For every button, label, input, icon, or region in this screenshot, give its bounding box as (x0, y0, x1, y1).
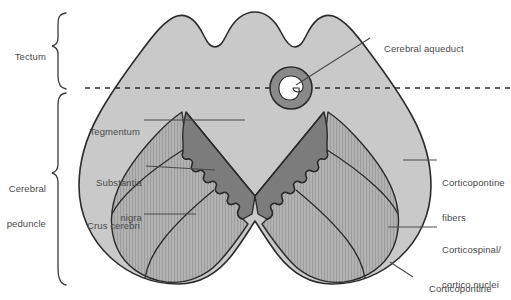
midbrain-cross-section-figure: Tectum Cerebral peduncle Cerebral aquedu… (0, 0, 511, 300)
bracket-tectum (52, 13, 66, 89)
cerebral-peduncle-text-line1: Cerebral (0, 183, 46, 195)
tectum-text: Tectum (15, 51, 46, 62)
bracket-label-tectum: Tectum (0, 39, 46, 74)
tegmentum-text: Tegmentum (89, 126, 140, 137)
label-tegmentum: Tegmentum (60, 114, 140, 149)
cerebral-peduncle-text-line2: peduncle (0, 218, 46, 230)
label-cerebral-aqueduct: Cerebral aqueduct (373, 31, 464, 66)
label-corticopontine: Corticopontine (418, 271, 492, 300)
corticospinal-text-line1: Corticospinal/ (442, 244, 501, 256)
label-crus-cerebri: Crus cerebri (58, 208, 140, 243)
crus-cerebri-text: Crus cerebri (87, 220, 140, 231)
corticopontine-text: Corticopontine (429, 283, 492, 294)
corticopontine-fibers-text-line1: Corticopontine (442, 177, 505, 189)
bracket-label-cerebral-peduncle: Cerebral peduncle (0, 160, 46, 252)
cerebral-aqueduct (270, 67, 312, 109)
leader-corticopontine (390, 262, 413, 277)
substantia-nigra-text-line1: Substantia (58, 177, 142, 189)
cerebral-aqueduct-text: Cerebral aqueduct (384, 43, 464, 54)
